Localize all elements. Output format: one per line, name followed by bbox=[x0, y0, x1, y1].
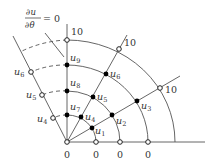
arc-r3 bbox=[67, 65, 148, 142]
mirror-line bbox=[13, 36, 67, 142]
outer-value-30: 10 bbox=[165, 84, 177, 95]
label-u7: u7 bbox=[70, 101, 80, 114]
axis-value-r2: 0 bbox=[117, 149, 123, 160]
axis-value-r1: 0 bbox=[93, 149, 99, 160]
dashed-arc-r2 bbox=[42, 91, 67, 95]
node-u8 bbox=[65, 89, 70, 94]
boundary-node-outer-60 bbox=[117, 47, 122, 52]
node-u1 bbox=[90, 126, 95, 131]
label-mirror-u5: u5 bbox=[26, 89, 36, 102]
boundary-node-outer-90 bbox=[65, 38, 70, 43]
label-u5: u5 bbox=[97, 91, 107, 104]
bc-leader-line bbox=[45, 33, 64, 57]
boundary-node-outer-30 bbox=[158, 86, 163, 91]
boundary-node-origin bbox=[65, 140, 70, 145]
node-u3 bbox=[135, 99, 140, 104]
node-u7 bbox=[65, 113, 70, 118]
axis-value-origin: 0 bbox=[64, 149, 70, 160]
bc-numerator: ∂u bbox=[26, 7, 36, 17]
boundary-node-axis-r3 bbox=[146, 140, 151, 145]
label-u8: u8 bbox=[70, 77, 80, 90]
mirror-node-u6 bbox=[29, 70, 34, 75]
polar-grid-diagram: ∂u ∂θ = 0 10 10 10 0 0 0 0 u1 u2 u3 u4 u… bbox=[0, 0, 215, 165]
label-mirror-u4: u4 bbox=[37, 113, 47, 126]
bc-denominator: ∂θ bbox=[25, 20, 35, 30]
node-u9 bbox=[65, 63, 70, 68]
outer-value-90: 10 bbox=[71, 26, 83, 37]
label-u9: u9 bbox=[70, 52, 80, 65]
label-u6: u6 bbox=[110, 68, 120, 81]
ray-30deg bbox=[67, 76, 180, 142]
bc-rhs: = 0 bbox=[43, 13, 60, 24]
dashed-arc-r3 bbox=[31, 65, 67, 72]
node-u5 bbox=[91, 95, 96, 100]
boundary-node-axis-r2 bbox=[118, 140, 123, 145]
dashed-arc-r4 bbox=[20, 40, 67, 52]
axis-value-r3: 0 bbox=[145, 149, 151, 160]
boundary-node-axis-r1 bbox=[94, 140, 99, 145]
node-u2 bbox=[110, 113, 115, 118]
label-mirror-u6: u6 bbox=[14, 66, 24, 79]
mirror-node-u4 bbox=[51, 116, 56, 121]
label-u1: u1 bbox=[95, 125, 105, 138]
node-u6 bbox=[104, 72, 109, 77]
boundary-condition-label: ∂u ∂θ = 0 bbox=[25, 7, 60, 30]
label-u3: u3 bbox=[141, 100, 151, 113]
node-u4 bbox=[79, 115, 84, 120]
outer-value-60: 10 bbox=[124, 37, 136, 48]
arc-r4-outer bbox=[67, 40, 175, 142]
mirror-node-u5 bbox=[40, 93, 45, 98]
